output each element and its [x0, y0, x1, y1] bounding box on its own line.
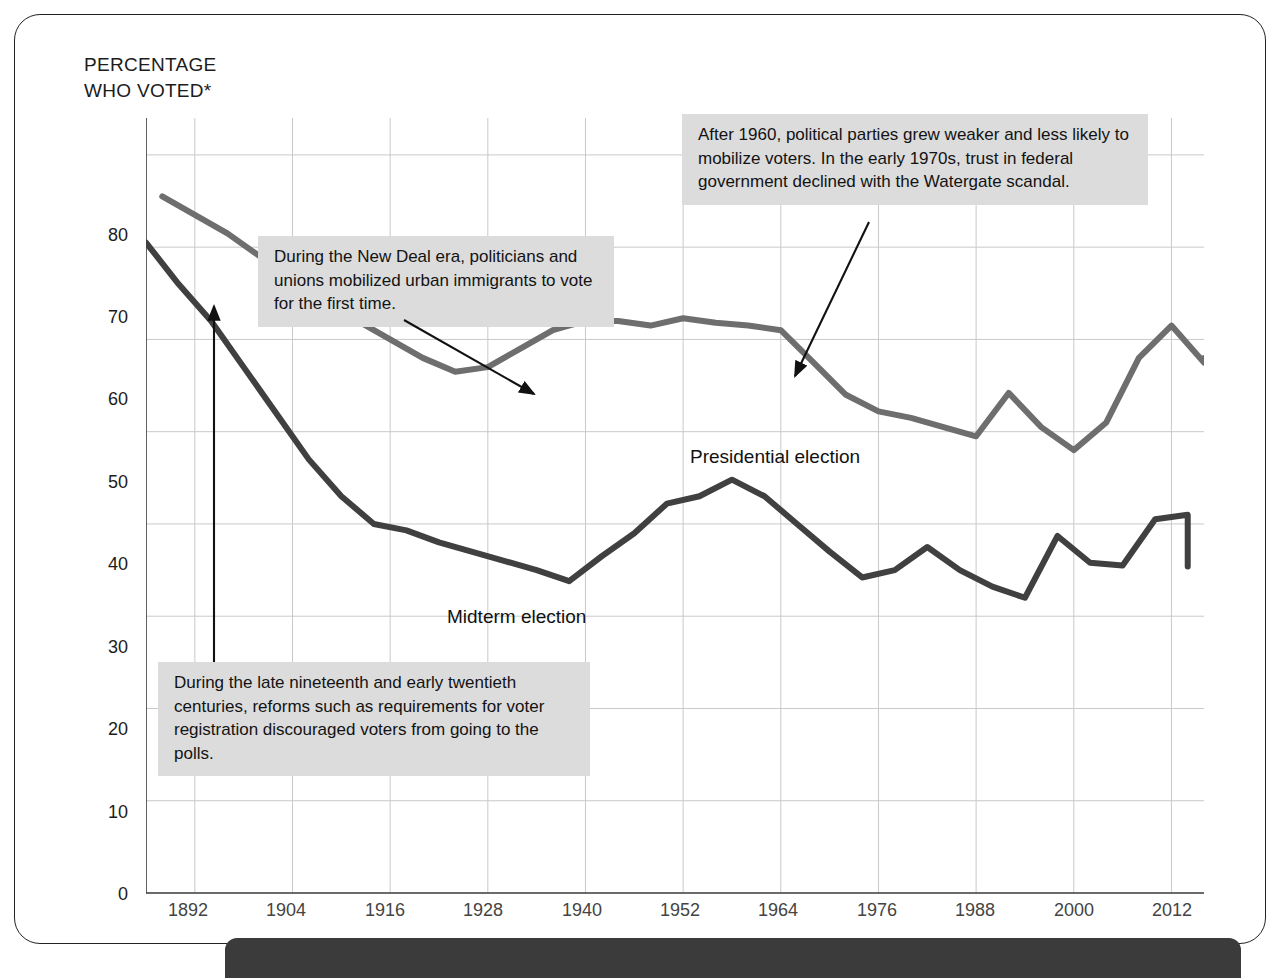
x-tick-1892: 1892	[148, 900, 228, 921]
y-tick-10: 10	[84, 802, 128, 823]
x-tick-1916: 1916	[345, 900, 425, 921]
y-axis-title: PERCENTAGE WHO VOTED*	[84, 52, 217, 104]
y-tick-80: 80	[84, 225, 128, 246]
chart-plot-area	[146, 118, 1204, 893]
x-tick-1904: 1904	[246, 900, 326, 921]
x-tick-2012: 2012	[1132, 900, 1212, 921]
line-chart	[146, 118, 1204, 898]
y-tick-30: 30	[84, 637, 128, 658]
x-tick-1988: 1988	[935, 900, 1015, 921]
x-tick-2000: 2000	[1034, 900, 1114, 921]
y-tick-70: 70	[84, 307, 128, 328]
y-tick-50: 50	[84, 472, 128, 493]
x-tick-1976: 1976	[837, 900, 917, 921]
x-tick-1952: 1952	[640, 900, 720, 921]
y-tick-20: 20	[84, 719, 128, 740]
callout-after-1960: After 1960, political parties grew weake…	[682, 114, 1148, 205]
y-tick-0: 0	[84, 884, 128, 905]
series-label-midterm: Midterm election	[447, 606, 586, 628]
gridlines	[146, 118, 1204, 893]
y-tick-40: 40	[84, 554, 128, 575]
x-tick-1940: 1940	[542, 900, 622, 921]
callout-reforms: During the late nineteenth and early twe…	[158, 662, 590, 776]
axis-lines	[146, 118, 1204, 893]
infographic-page: PERCENTAGE WHO VOTED* 80 70 60 50 40 30 …	[0, 0, 1288, 978]
y-tick-60: 60	[84, 389, 128, 410]
footer-bar	[225, 938, 1241, 978]
x-tick-1928: 1928	[443, 900, 523, 921]
series-label-presidential: Presidential election	[690, 446, 860, 468]
x-tick-1964: 1964	[738, 900, 818, 921]
callout-new-deal: During the New Deal era, politicians and…	[258, 236, 614, 327]
